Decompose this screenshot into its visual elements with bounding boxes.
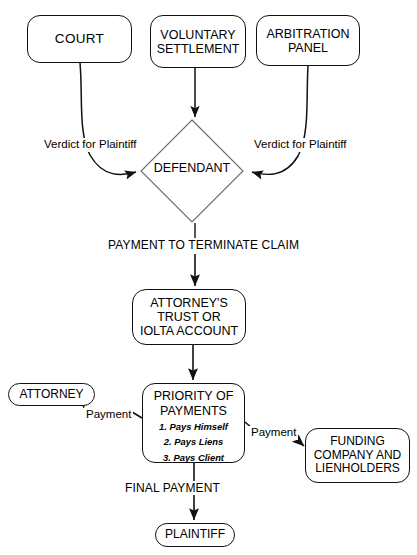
node-attorney[interactable]: ATTORNEY xyxy=(8,383,95,406)
node-voluntary-settlement[interactable]: VOLUNTARY SETTLEMENT xyxy=(150,15,246,68)
node-funding-company-line3: LIENHOLDERS xyxy=(315,462,400,475)
node-trust-account[interactable]: ATTORNEY'S TRUST OR IOLTA ACCOUNT xyxy=(132,289,246,345)
edge-label-verdict-left: Verdict for Plaintiff xyxy=(42,138,138,152)
edge-label-payment-to-terminate-claim: PAYMENT TO TERMINATE CLAIM xyxy=(105,238,302,252)
node-arbitration-panel-line1: ARBITRATION xyxy=(266,27,349,41)
node-plaintiff-label: PLAINTIFF xyxy=(165,528,225,541)
node-funding-company-line2: COMPANY AND xyxy=(314,449,402,462)
node-voluntary-settlement-line1: VOLUNTARY xyxy=(160,28,235,42)
edge-label-final-payment: FINAL PAYMENT xyxy=(122,481,223,495)
edge-label-payment-funding: Payment xyxy=(249,426,298,440)
node-arbitration-panel[interactable]: ARBITRATION PANEL xyxy=(256,15,360,66)
node-court-label: COURT xyxy=(55,31,104,46)
node-funding-company[interactable]: FUNDING COMPANY AND LIENHOLDERS xyxy=(305,428,410,483)
node-trust-account-line2: TRUST OR xyxy=(157,310,221,324)
priority-item-1: 1. Pays Himself xyxy=(159,420,228,433)
node-court[interactable]: COURT xyxy=(27,15,132,63)
edge-court-to-defendant xyxy=(80,63,136,174)
priority-item-3: 3. Pays Client xyxy=(163,451,224,464)
node-priority-of-payments[interactable]: PRIORITY OF PAYMENTS 1. Pays Himself 2. … xyxy=(142,383,245,463)
node-defendant-label: DEFENDANT xyxy=(140,161,244,175)
edge-arbitration-to-defendant xyxy=(252,66,308,175)
node-funding-company-line1: FUNDING xyxy=(330,435,385,448)
node-plaintiff[interactable]: PLAINTIFF xyxy=(155,523,235,547)
node-trust-account-line1: ATTORNEY'S xyxy=(150,296,228,310)
edge-priority-to-attorney-seg1 xyxy=(132,412,142,418)
node-priority-of-payments-line1: PRIORITY OF xyxy=(154,389,234,404)
edge-label-verdict-right: Verdict for Plaintiff xyxy=(252,138,348,152)
edge-label-payment-attorney: Payment xyxy=(84,408,133,422)
node-defendant[interactable]: DEFENDANT xyxy=(140,119,244,223)
node-arbitration-panel-line2: PANEL xyxy=(288,41,328,55)
node-voluntary-settlement-line2: SETTLEMENT xyxy=(157,42,240,56)
priority-item-2: 2. Pays Liens xyxy=(164,435,223,448)
flowchart-canvas: COURT VOLUNTARY SETTLEMENT ARBITRATION P… xyxy=(0,0,417,555)
node-priority-of-payments-line2: PAYMENTS xyxy=(160,404,227,419)
node-trust-account-line3: IOLTA ACCOUNT xyxy=(140,324,238,338)
node-attorney-label: ATTORNEY xyxy=(19,388,83,401)
